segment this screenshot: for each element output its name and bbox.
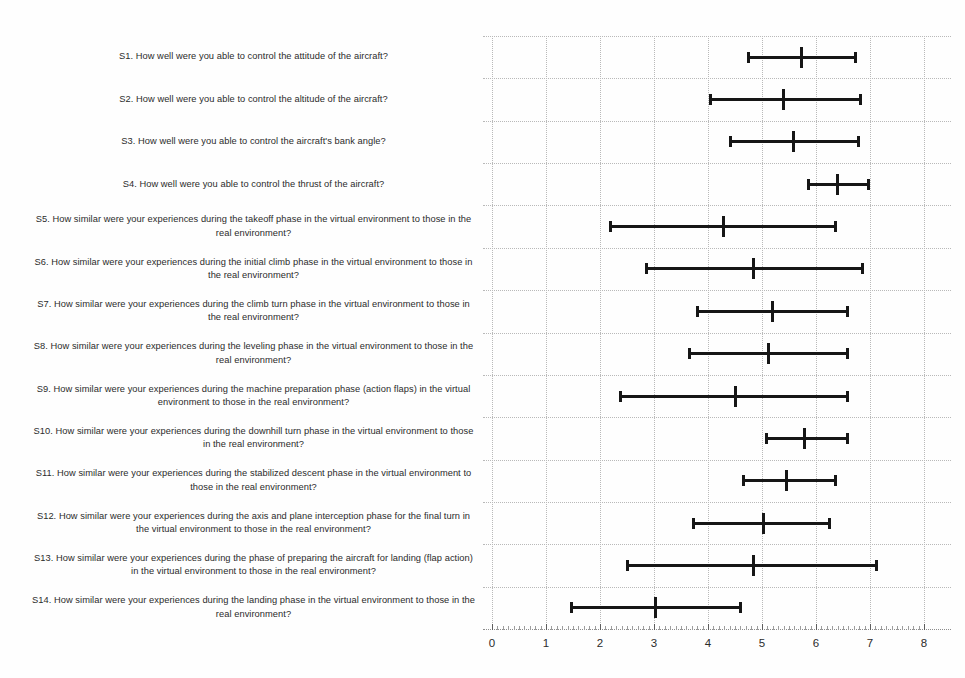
question-row: S5. How similar were your experiences du…	[30, 205, 483, 247]
x-axis-minor-tick	[589, 626, 590, 630]
x-axis-minor-tick	[530, 626, 531, 630]
errorbar-chart-figure: S1. How well were you able to control th…	[0, 0, 965, 678]
x-axis-minor-tick	[843, 626, 844, 630]
x-axis-minor-tick	[811, 626, 812, 630]
x-axis-minor-tick	[735, 626, 736, 630]
x-axis-minor-tick	[519, 626, 520, 630]
question-label: S4. How well were you able to control th…	[30, 178, 477, 191]
error-bar-cap-high	[846, 306, 849, 317]
question-label: S6. How similar were your experiences du…	[30, 256, 477, 283]
x-axis-tick-label: 5	[759, 637, 765, 649]
gridline-horizontal	[483, 417, 951, 418]
x-axis-minor-tick	[568, 626, 569, 630]
x-axis-minor-tick	[595, 626, 596, 630]
x-axis-major-tick	[654, 624, 655, 630]
error-bar-cap-high	[854, 52, 857, 63]
x-axis-tick-label: 3	[651, 637, 657, 649]
x-axis-minor-tick	[773, 626, 774, 630]
gridline-horizontal	[483, 544, 951, 545]
x-axis-minor-tick	[746, 626, 747, 630]
error-bar-cap-high	[867, 179, 870, 190]
x-axis-minor-tick	[627, 626, 628, 630]
x-axis-major-tick	[492, 624, 493, 630]
error-bar-mean-marker	[752, 555, 755, 576]
x-axis-minor-tick	[892, 626, 893, 630]
error-bar-cap-high	[846, 391, 849, 402]
error-bar-cap-high	[834, 221, 837, 232]
error-bar-cap-low	[692, 518, 695, 529]
x-axis-minor-tick	[524, 626, 525, 630]
error-bar-mean-marker	[803, 428, 806, 449]
x-axis-minor-tick	[794, 626, 795, 630]
question-label: S5. How similar were your experiences du…	[30, 213, 477, 240]
x-axis-minor-tick	[562, 626, 563, 630]
error-bar-cap-high	[739, 602, 742, 613]
error-bar-cap-low	[570, 602, 573, 613]
question-label: S10. How similar were your experiences d…	[30, 425, 477, 452]
error-bar-cap-low	[729, 136, 732, 147]
error-bar-cap-low	[709, 94, 712, 105]
x-axis-minor-tick	[616, 626, 617, 630]
error-bar-cap-low	[807, 179, 810, 190]
x-axis-minor-tick	[697, 626, 698, 630]
error-bar-cap-low	[619, 391, 622, 402]
error-bar-range-line	[743, 479, 836, 482]
x-axis-minor-tick	[751, 626, 752, 630]
x-axis-major-tick	[762, 624, 763, 630]
x-axis-minor-tick	[805, 626, 806, 630]
error-bar-cap-low	[747, 52, 750, 63]
question-label: S2. How well were you able to control th…	[30, 93, 477, 106]
x-axis-minor-tick	[859, 626, 860, 630]
gridline-horizontal	[483, 333, 951, 334]
x-axis: 012345678	[483, 629, 951, 669]
gridline-horizontal	[483, 163, 951, 164]
x-axis-minor-tick	[740, 626, 741, 630]
x-axis-minor-tick	[584, 626, 585, 630]
x-axis-tick-label: 8	[921, 637, 927, 649]
x-axis-tick-label: 1	[543, 637, 549, 649]
error-bar-cap-high	[861, 263, 864, 274]
question-row: S11. How similar were your experiences d…	[30, 460, 483, 502]
x-axis-minor-tick	[703, 626, 704, 630]
x-axis-minor-tick	[784, 626, 785, 630]
x-axis-minor-tick	[681, 626, 682, 630]
error-bar-range-line	[710, 98, 861, 101]
x-axis-minor-tick	[573, 626, 574, 630]
question-row: S2. How well were you able to control th…	[30, 78, 483, 120]
x-axis-minor-tick	[665, 626, 666, 630]
x-axis-minor-tick	[778, 626, 779, 630]
question-label: S3. How well were you able to control th…	[30, 135, 477, 148]
x-axis-tick-label: 6	[813, 637, 819, 649]
question-row: S8. How similar were your experiences du…	[30, 333, 483, 375]
error-bar-cap-high	[857, 136, 860, 147]
x-axis-minor-tick	[838, 626, 839, 630]
error-bar-mean-marker	[767, 343, 770, 364]
question-label: S1. How well were you able to control th…	[30, 50, 477, 63]
x-axis-tick-label: 0	[489, 637, 495, 649]
question-label: S8. How similar were your experiences du…	[30, 340, 477, 367]
error-bar-cap-high	[846, 348, 849, 359]
error-bar-range-line	[766, 437, 848, 440]
x-axis-minor-tick	[638, 626, 639, 630]
question-row: S13. How similar were your experiences d…	[30, 544, 483, 586]
gridline-horizontal	[483, 121, 951, 122]
question-label-column: S1. How well were you able to control th…	[30, 36, 483, 629]
x-axis-minor-tick	[757, 626, 758, 630]
question-row: S14. How similar were your experiences d…	[30, 587, 483, 629]
error-bar-cap-high	[875, 560, 878, 571]
x-axis-minor-tick	[789, 626, 790, 630]
x-axis-minor-tick	[865, 626, 866, 630]
error-bar-mean-marker	[792, 131, 795, 152]
x-axis-minor-tick	[854, 626, 855, 630]
question-label: S11. How similar were your experiences d…	[30, 467, 477, 494]
x-axis-tick-label: 2	[597, 637, 603, 649]
x-axis-major-tick	[546, 624, 547, 630]
question-row: S3. How well were you able to control th…	[30, 121, 483, 163]
x-axis-minor-tick	[908, 626, 909, 630]
question-row: S1. How well were you able to control th…	[30, 36, 483, 78]
gridline-horizontal	[483, 290, 951, 291]
gridline-horizontal	[483, 36, 951, 37]
x-axis-minor-tick	[730, 626, 731, 630]
error-bar-cap-low	[688, 348, 691, 359]
x-axis-minor-tick	[670, 626, 671, 630]
